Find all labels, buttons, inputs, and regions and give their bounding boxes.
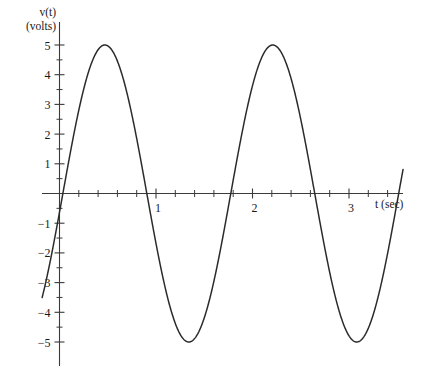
y-tick-label: −2 xyxy=(38,246,51,260)
y-tick-label: 1 xyxy=(45,157,51,171)
x-axis-label: t (sec) xyxy=(375,198,404,211)
voltage-waveform-figure: v(t) (volts) t (sec) 54321−1−2−3−4−5 123 xyxy=(0,0,421,376)
y-tick-label: −5 xyxy=(38,336,51,350)
y-tick-label: 5 xyxy=(45,39,51,53)
x-tick-label: 1 xyxy=(155,201,161,215)
y-tick-label: 2 xyxy=(45,128,51,142)
y-axis-label-line2: (volts) xyxy=(26,20,56,33)
plot-canvas: v(t) (volts) t (sec) 54321−1−2−3−4−5 123 xyxy=(0,0,421,376)
x-tick-label: 3 xyxy=(348,201,354,215)
y-axis-label-line1: v(t) xyxy=(39,6,56,19)
x-tick-labels: 123 xyxy=(155,201,354,215)
y-tick-label: 4 xyxy=(45,68,51,82)
y-tick-label: −1 xyxy=(38,217,51,231)
y-tick-label: 3 xyxy=(45,98,51,112)
x-tick-label: 2 xyxy=(252,201,258,215)
y-tick-label: −4 xyxy=(38,306,51,320)
